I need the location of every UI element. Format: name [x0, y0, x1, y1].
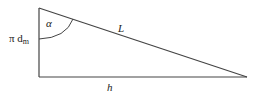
hypotenuse-label: L	[117, 22, 124, 34]
angle-label: α	[46, 17, 52, 29]
angle-arc	[39, 19, 73, 39]
vertical-side-label: π dm	[9, 32, 30, 46]
triangle-diagram: α π dm L h	[0, 0, 260, 93]
hypotenuse-side	[39, 8, 247, 77]
base-label: h	[107, 81, 113, 93]
